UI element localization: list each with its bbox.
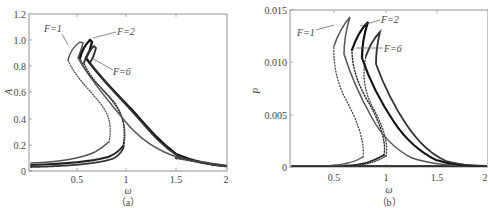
x-tick-b-3: 2 (483, 172, 488, 183)
arrow-a-f1 (62, 34, 68, 45)
y-axis-label-a: A (3, 88, 14, 96)
y-tick-b-0: 0 (282, 162, 287, 173)
y-tick-a-1: 0.2 (14, 140, 27, 151)
caption-b: （b） (377, 197, 402, 208)
x-tick-b-0: 0.5 (328, 172, 341, 183)
plot-frame-b (290, 10, 488, 167)
y-axis-label-b: P (251, 88, 262, 95)
y-tick-a-0: 0 (21, 166, 26, 177)
annotation-a-f6: F=6 (112, 66, 131, 77)
y-tick-a-5: 1.0 (14, 35, 27, 46)
annotation-b-f2: F=2 (380, 14, 399, 25)
x-tick-a-0: 0.5 (71, 174, 84, 185)
curves-b (292, 17, 486, 166)
y-tick-a-4: 0.8 (14, 61, 27, 72)
x-tick-b-2: 1.5 (431, 172, 444, 183)
y-tick-a-3: 0.6 (14, 87, 27, 98)
y-tick-b-3: 0.015 (265, 5, 288, 16)
arrow-b-f1 (316, 25, 334, 30)
y-tick-b-1: 0.005 (265, 110, 288, 121)
arrow-b-f2 (360, 20, 380, 26)
annotation-a-f1: F=1 (43, 23, 62, 34)
annotation-b-f1: F=1 (296, 27, 315, 38)
curves-a (31, 40, 226, 167)
x-tick-b-1: 1 (384, 172, 389, 183)
x-tick-a-2: 1.5 (170, 174, 183, 185)
curve-b-f1-middle (334, 46, 363, 157)
x-axis-label-b: ω (385, 184, 392, 195)
plot-frame-a (29, 14, 227, 171)
curve-a-f1-middle (68, 60, 110, 142)
curve-b-f2-middle (352, 50, 385, 155)
chart-panel-a: 0 0.2 0.4 0.6 0.8 1.0 1.2 0.5 1 1.5 2 ω … (3, 9, 229, 208)
y-tick-a-6: 1.2 (14, 9, 27, 20)
chart-panel-b: 0 0.005 0.010 0.015 0.5 1 1.5 2 ω P （b） … (251, 5, 488, 208)
x-tick-a-1: 1 (124, 174, 129, 185)
caption-a: （a） (116, 197, 140, 208)
y-tick-b-2: 0.010 (265, 57, 288, 68)
x-tick-a-3: 2 (224, 174, 229, 185)
annotation-a-f2: F=2 (116, 26, 135, 37)
y-tick-a-2: 0.4 (14, 114, 27, 125)
x-axis-label-a: ω (124, 185, 131, 196)
annotation-b-f6: F=6 (383, 43, 402, 54)
arrow-a-f2 (93, 32, 116, 38)
curve-a-tail-markers (176, 158, 226, 166)
